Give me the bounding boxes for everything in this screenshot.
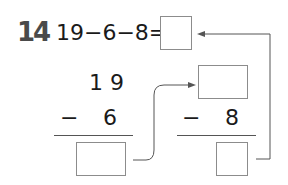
arrow-step2-to-final (203, 34, 270, 159)
arrow-head-icon (188, 82, 196, 88)
connector-arrows (0, 0, 288, 185)
arrow-step1-to-step2 (133, 85, 190, 160)
arrow-head-icon (197, 31, 205, 37)
